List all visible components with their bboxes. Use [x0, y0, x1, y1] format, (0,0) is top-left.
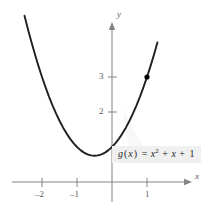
y-axis-arrowhead — [109, 22, 115, 30]
equation-term1-exponent: 2 — [155, 147, 159, 155]
x-tick-label-pos1: 1 — [145, 189, 150, 199]
marked-point — [144, 74, 149, 79]
plot-area — [0, 0, 209, 213]
equation-equals: = — [141, 148, 149, 159]
function-graph-figure: x y –2 –1 1 3 2 g(x) = x2 + x + 1 — [0, 0, 209, 213]
y-tick-label-3: 3 — [99, 71, 104, 81]
function-equation-label: g(x) = x2 + x + 1 — [112, 146, 201, 163]
y-tick-label-2: 2 — [99, 106, 104, 116]
x-axis-arrowhead — [184, 179, 192, 185]
x-axis-label: x — [195, 171, 199, 181]
x-tick-label-neg1: –1 — [70, 189, 79, 199]
equation-plus-1: + — [161, 148, 169, 159]
equation-plus-2: + — [178, 148, 186, 159]
equation-term2: x — [171, 148, 175, 159]
x-tick-label-neg2: –2 — [35, 189, 44, 199]
parabola-curve — [25, 16, 158, 156]
y-axis-label: y — [117, 9, 121, 19]
equation-term3: 1 — [188, 148, 195, 159]
